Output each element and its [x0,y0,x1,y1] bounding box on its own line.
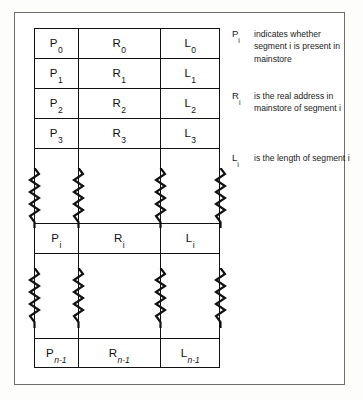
break-zigzag-lower-right-edge [214,268,227,328]
break-zigzag-lower-left-edge [28,268,41,328]
table-cell-length-3: L3 [160,118,220,148]
table-cell-address-n-1: Rn-1 [78,338,160,368]
table-cell-present-0: P0 [34,28,78,58]
table-cell-address-3: R3 [78,118,160,148]
break-zigzag-lower-divider-2 [154,268,167,328]
table-cell-present-n-1: Pn-1 [34,338,78,368]
row-divider-6 [34,253,220,254]
break-zigzag-upper-left-edge [28,168,41,228]
break-zigzag-upper-divider-2 [154,168,167,228]
annotation-symbol-r: Ri [232,90,252,102]
table-cell-length-0: L0 [160,28,220,58]
annotation-length: Li is the length of segment i [232,152,354,164]
annotation-symbol-l: Li [232,152,252,164]
annotation-real-address: Ri is the real address in mainstore of s… [232,90,354,115]
break-zigzag-upper-divider-1 [72,168,85,228]
segment-table: P0 R0 L0 P1 R1 L1 P2 R2 L2 P3 R3 L3 Pi R… [34,28,220,368]
table-cell-present-2: P2 [34,88,78,118]
annotation-text-p: indicates whether segment i is present i… [254,28,354,65]
break-zigzag-upper-right-edge [214,168,227,228]
table-cell-length-n-1: Ln-1 [160,338,220,368]
table-cell-present-3: P3 [34,118,78,148]
table-cell-length-1: L1 [160,58,220,88]
annotation-present-bit: Pi indicates whether segment i is presen… [232,28,354,65]
table-cell-length-i: Li [160,223,220,253]
annotation-symbol-p: Pi [232,28,252,40]
row-divider-4 [34,148,220,149]
table-cell-present-1: P1 [34,58,78,88]
break-zigzag-lower-divider-1 [72,268,85,328]
table-cell-address-2: R2 [78,88,160,118]
table-cell-address-0: R0 [78,28,160,58]
annotation-text-r: is the real address in mainstore of segm… [254,90,354,115]
table-cell-address-i: Ri [78,223,160,253]
figure-canvas: P0 R0 L0 P1 R1 L1 P2 R2 L2 P3 R3 L3 Pi R… [0,0,363,400]
table-cell-length-2: L2 [160,88,220,118]
table-cell-address-1: R1 [78,58,160,88]
table-cell-present-i: Pi [34,223,78,253]
annotation-text-l: is the length of segment i [254,152,354,164]
